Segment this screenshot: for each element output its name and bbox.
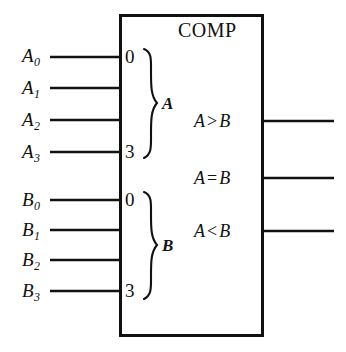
output-a-equal-b-left: A (194, 168, 205, 188)
input-label-b1-subscript: 1 (34, 229, 40, 243)
output-a-equal-b-operator: = (207, 168, 217, 188)
input-label-a2-base: A (22, 109, 34, 130)
pin-index-a-bottom: 3 (125, 142, 135, 161)
comparator-diagram: COMP A0 A1 A2 A3 B0 B1 B2 B3 0 3 0 3 A B… (0, 0, 346, 352)
input-label-b3-subscript: 3 (34, 290, 40, 304)
input-label-a2-subscript: 2 (34, 119, 40, 133)
output-label-a-equal-b: A=B (194, 169, 230, 187)
output-a-less-b-left: A (194, 221, 205, 241)
group-label-b: B (162, 237, 173, 254)
input-label-a2: A2 (22, 110, 40, 132)
pin-index-a-top: 0 (125, 47, 135, 66)
pin-index-b-bottom: 3 (125, 281, 135, 300)
output-a-greater-b-left: A (194, 111, 205, 131)
output-a-equal-b-right: B (219, 168, 230, 188)
input-label-b1-base: B (22, 219, 34, 240)
input-label-b3: B3 (22, 281, 40, 303)
input-label-a0-base: A (22, 45, 34, 66)
output-label-a-less-b: A<B (194, 222, 230, 240)
input-label-b0-subscript: 0 (34, 199, 40, 213)
comparator-block-rect (121, 16, 263, 336)
pin-index-b-top: 0 (125, 190, 135, 209)
output-label-a-greater-b: A>B (194, 112, 230, 130)
output-a-greater-b-operator: > (207, 111, 217, 131)
output-a-greater-b-right: B (219, 111, 230, 131)
input-label-a1-base: A (22, 77, 34, 98)
output-a-less-b-operator: < (207, 221, 217, 241)
diagram-canvas (0, 0, 346, 352)
input-label-a3-subscript: 3 (34, 151, 40, 165)
input-label-a0-subscript: 0 (34, 55, 40, 69)
input-label-a3: A3 (22, 142, 40, 164)
input-label-a1: A1 (22, 78, 40, 100)
input-label-b0: B0 (22, 190, 40, 212)
input-label-b2-subscript: 2 (34, 259, 40, 273)
input-label-a3-base: A (22, 141, 34, 162)
input-label-b2-base: B (22, 249, 34, 270)
input-label-b1: B1 (22, 220, 40, 242)
input-label-b2: B2 (22, 250, 40, 272)
input-label-b0-base: B (22, 189, 34, 210)
block-title: COMP (178, 20, 237, 40)
output-a-less-b-right: B (219, 221, 230, 241)
input-label-a1-subscript: 1 (34, 87, 40, 101)
group-label-a: A (162, 95, 173, 112)
input-label-b3-base: B (22, 280, 34, 301)
input-label-a0: A0 (22, 46, 40, 68)
